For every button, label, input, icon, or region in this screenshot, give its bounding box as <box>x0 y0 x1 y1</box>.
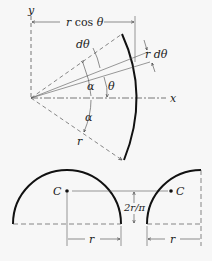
left-radius-label: r <box>89 233 95 246</box>
theta-arc <box>104 77 107 97</box>
upper-figure: y x r cos θ r dθ dθ α θ α <box>27 4 177 160</box>
circular-arc <box>122 34 137 160</box>
left-centroid-dot <box>65 189 69 193</box>
left-centroid-label: C <box>53 185 62 198</box>
rcos-label: r cos θ <box>66 16 104 29</box>
lower-boundary-radius <box>31 98 122 160</box>
r-dtheta-label: r dθ <box>145 48 168 61</box>
alpha-upper-label: α <box>87 80 95 93</box>
dtheta-arc <box>93 48 100 68</box>
right-quarter-arc <box>147 170 201 224</box>
right-radius-label: r <box>170 233 176 246</box>
centroid-arc-diagram: y x r cos θ r dθ dθ α θ α <box>0 0 212 261</box>
y-axis-label: y <box>27 4 35 17</box>
r-dtheta-arrow-bottom <box>152 63 155 72</box>
centroid-height-label: 2r/π <box>123 202 146 213</box>
x-axis-label: x <box>170 92 177 105</box>
theta-label: θ <box>108 80 115 93</box>
dtheta-label: dθ <box>76 38 90 51</box>
lower-figure: C C 2r/π r r <box>13 170 201 246</box>
alpha-lower-label: α <box>85 111 93 124</box>
right-centroid-label: C <box>176 185 185 198</box>
radius-label: r <box>77 135 83 148</box>
right-centroid-dot <box>169 189 173 193</box>
